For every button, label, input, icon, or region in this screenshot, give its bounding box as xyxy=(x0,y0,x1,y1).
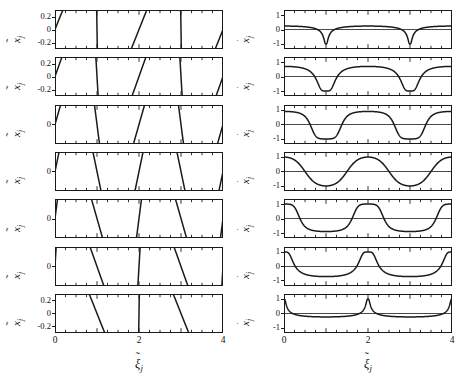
y-tick-mark xyxy=(281,204,285,205)
y-tick-mark xyxy=(281,252,285,253)
plot-curve-right-row5 xyxy=(284,199,452,238)
y-tick-label: 0 xyxy=(25,25,51,34)
y-tick-label: 0 xyxy=(25,262,51,271)
x-tick-label: 4 xyxy=(440,336,458,346)
plot-panel-left-row3 xyxy=(55,105,223,144)
y-tick-label: 1 xyxy=(254,294,280,303)
right-column-panels: 10-1x˙j10-1x˙j10-1x˙j10-1x˙j10-1x˙j10-1x… xyxy=(229,0,458,384)
plot-curve-right-row6 xyxy=(284,247,452,286)
plot-panel-right-row7 xyxy=(284,294,452,333)
y-tick-mark xyxy=(281,30,285,31)
y-tick-mark xyxy=(52,90,56,91)
y-tick-mark xyxy=(281,62,285,63)
y-axis-label-right-row3: x˙j xyxy=(240,130,254,137)
y-tick-mark xyxy=(281,233,285,234)
y-tick-mark xyxy=(281,186,285,187)
y-tick-label: 0 xyxy=(25,214,51,223)
y-tick-label: 0 xyxy=(254,25,280,34)
y-tick-label: 1 xyxy=(254,200,280,209)
y-tick-label: -1 xyxy=(254,39,280,48)
y-tick-mark xyxy=(281,313,285,314)
x-axis-label-right: ξ˜j xyxy=(284,358,452,373)
y-axis-label-left-row7: x˜j xyxy=(11,319,25,326)
plot-curve-left-row7 xyxy=(55,294,223,333)
y-tick-mark xyxy=(52,64,56,65)
plot-panel-left-row7 xyxy=(55,294,223,333)
plot-panel-right-row2 xyxy=(284,57,452,96)
y-tick-mark xyxy=(281,139,285,140)
plot-curve-left-row5 xyxy=(55,199,223,238)
y-axis-label-left-row2: x˜j xyxy=(11,83,25,90)
y-tick-label: -1 xyxy=(254,87,280,96)
y-tick-mark xyxy=(281,171,285,172)
y-tick-label: -1 xyxy=(254,276,280,285)
plot-curve-left-row2 xyxy=(55,57,223,96)
y-tick-mark xyxy=(281,44,285,45)
y-axis-label-right-row6: x˙j xyxy=(240,272,254,279)
y-tick-mark xyxy=(52,326,56,327)
y-tick-label: 1 xyxy=(254,58,280,67)
x-axis-label-left: ξ˜j xyxy=(55,358,223,373)
plot-curve-left-row4 xyxy=(55,152,223,191)
y-axis-label-left-row1: x˜j xyxy=(11,35,25,42)
y-tick-mark xyxy=(281,328,285,329)
y-tick-mark xyxy=(281,219,285,220)
y-tick-mark xyxy=(281,91,285,92)
y-axis-label-right-row4: x˙j xyxy=(240,177,254,184)
y-tick-mark xyxy=(281,157,285,158)
y-tick-label: 1 xyxy=(254,11,280,20)
y-tick-mark xyxy=(52,266,56,267)
y-tick-label: 0 xyxy=(254,120,280,129)
x-tick-label: 2 xyxy=(356,336,380,346)
plot-curve-right-row4 xyxy=(284,152,452,191)
y-tick-label: 0.2 xyxy=(25,296,51,305)
y-tick-mark xyxy=(281,299,285,300)
x-tick-label: 2 xyxy=(127,336,151,346)
y-tick-mark xyxy=(52,17,56,18)
y-tick-label: -0.2 xyxy=(25,322,51,331)
y-tick-label: -1 xyxy=(254,323,280,332)
y-tick-label: -1 xyxy=(254,134,280,143)
y-tick-label: -1 xyxy=(254,181,280,190)
y-axis-label-left-row6: x˜j xyxy=(11,272,25,279)
plot-panel-right-row4 xyxy=(284,152,452,191)
y-axis-label-left-row5: x˜j xyxy=(11,225,25,232)
plot-curve-right-row1 xyxy=(284,10,452,49)
y-tick-mark xyxy=(52,77,56,78)
y-tick-label: 0 xyxy=(254,262,280,271)
plot-curve-right-row7 xyxy=(284,294,452,333)
y-axis-label-right-row1: x˙j xyxy=(240,35,254,42)
left-column-panels: 0.20-0.2x˜j0.20-0.2x˜j0x˜j0x˜j0x˜j0x˜j0.… xyxy=(0,0,229,384)
y-axis-label-right-row5: x˙j xyxy=(240,225,254,232)
plot-curve-right-row2 xyxy=(284,57,452,96)
plot-panel-right-row5 xyxy=(284,199,452,238)
y-tick-mark xyxy=(52,171,56,172)
y-tick-label: -0.2 xyxy=(25,85,51,94)
x-tick-label: 0 xyxy=(272,336,296,346)
plot-panel-left-row1 xyxy=(55,10,223,49)
y-tick-mark xyxy=(52,30,56,31)
y-tick-mark xyxy=(281,110,285,111)
y-tick-label: 0.2 xyxy=(25,59,51,68)
y-tick-label: -1 xyxy=(254,229,280,238)
plot-panel-right-row6 xyxy=(284,247,452,286)
y-tick-mark xyxy=(281,15,285,16)
y-tick-label: 0 xyxy=(25,72,51,81)
y-tick-label: 1 xyxy=(254,105,280,114)
y-tick-mark xyxy=(52,43,56,44)
plot-curve-left-row3 xyxy=(55,105,223,144)
y-tick-mark xyxy=(52,219,56,220)
plot-panel-left-row4 xyxy=(55,152,223,191)
y-axis-label-right-row7: x˙j xyxy=(240,319,254,326)
y-axis-label-left-row3: x˜j xyxy=(11,130,25,137)
plot-panel-right-row3 xyxy=(284,105,452,144)
y-tick-mark xyxy=(52,124,56,125)
y-tick-label: 0 xyxy=(254,72,280,81)
y-tick-mark xyxy=(52,300,56,301)
plot-panel-left-row2 xyxy=(55,57,223,96)
y-tick-mark xyxy=(281,280,285,281)
y-tick-label: 0 xyxy=(25,167,51,176)
y-axis-label-left-row4: x˜j xyxy=(11,177,25,184)
y-tick-mark xyxy=(52,313,56,314)
plot-panel-right-row1 xyxy=(284,10,452,49)
